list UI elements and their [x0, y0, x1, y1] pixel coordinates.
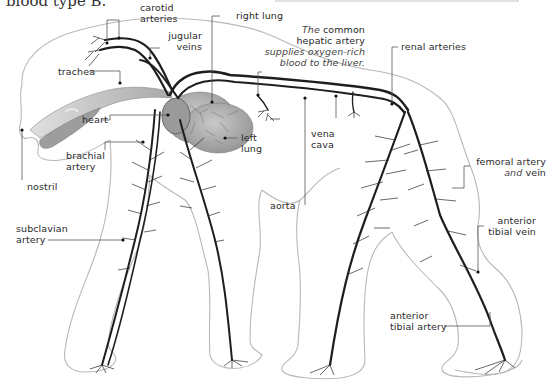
label-anterior-tibial-vein: anterior tibial vein	[470, 215, 536, 237]
annotation-italic: The	[302, 24, 320, 35]
label-line: left	[241, 132, 262, 143]
label-line: femoral artery	[470, 156, 546, 167]
label-line: carotid	[140, 2, 177, 13]
annotation-box-border	[276, 0, 518, 2]
label-line: and vein	[470, 167, 546, 178]
label-line: tibial artery	[390, 321, 447, 332]
label-jugular-veins: jugular veins	[158, 30, 202, 52]
label-line: jugular	[158, 30, 202, 41]
label-trachea: trachea	[58, 66, 95, 77]
label-carotid-arteries: carotid arteries	[140, 2, 177, 24]
annotation-text: common	[320, 24, 365, 35]
annotation-line-2: hepatic artery	[250, 35, 365, 46]
label-brachial-artery: brachial artery	[66, 150, 105, 172]
label-right-lung: right lung	[236, 10, 283, 21]
label-line: artery	[66, 161, 105, 172]
label-line: brachial	[66, 150, 105, 161]
small-branches	[85, 36, 476, 274]
lungs-shape	[162, 92, 253, 153]
label-italic: and	[504, 167, 522, 178]
label-line: vena	[311, 128, 335, 139]
label-line: lung	[241, 143, 262, 154]
circulatory-system-diagram: blood type B.	[0, 0, 546, 390]
feet-branches	[90, 360, 515, 375]
label-line: anterior	[470, 215, 536, 226]
label-vena-cava: vena cava	[311, 128, 335, 150]
annotation-line-4: blood to the liver.	[250, 57, 365, 68]
label-nostril: nostril	[27, 181, 57, 192]
label-left-lung: left lung	[241, 132, 262, 154]
annotation-line-1: The common	[250, 24, 365, 35]
label-subclavian-artery: subclavian artery	[16, 223, 68, 245]
label-anterior-tibial-artery: anterior tibial artery	[390, 310, 447, 332]
label-femoral-artery-and-vein: femoral artery and vein	[470, 156, 546, 178]
annotation-line-3: supplies oxygen-rich	[250, 46, 365, 57]
label-line: anterior	[390, 310, 447, 321]
label-line: arteries	[140, 13, 177, 24]
label-aorta: aorta	[270, 200, 296, 211]
label-line: subclavian	[16, 223, 68, 234]
label-line: veins	[158, 41, 202, 52]
label-line: artery	[16, 234, 68, 245]
label-line: cava	[311, 139, 335, 150]
label-heart: heart	[82, 114, 108, 125]
label-line: tibial vein	[470, 226, 536, 237]
label-renal-arteries: renal arteries	[401, 41, 466, 52]
label-text: vein	[522, 167, 546, 178]
annotation-hepatic-artery: The common hepatic artery supplies oxyge…	[250, 24, 365, 68]
